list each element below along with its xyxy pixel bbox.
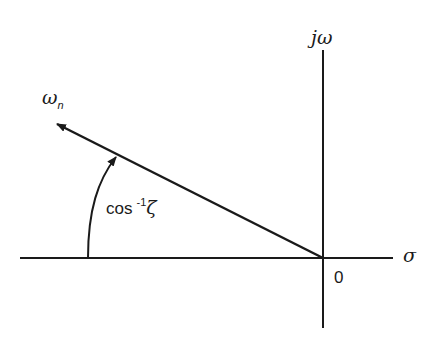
- inverse-superscript: -1: [136, 196, 146, 208]
- vector-subscript: n: [58, 99, 64, 111]
- imaginary-axis-label: jω: [311, 26, 332, 48]
- omega-symbol: ω: [42, 86, 58, 108]
- s-plane-diagram: [0, 0, 434, 344]
- zeta-symbol: ζ: [146, 196, 156, 218]
- angle-label: cos -1ζ: [106, 196, 157, 219]
- real-axis-label: σ: [403, 244, 416, 266]
- cos-text: cos: [106, 199, 132, 218]
- origin-label: 0: [334, 268, 343, 288]
- vector-label: ωn: [42, 86, 64, 111]
